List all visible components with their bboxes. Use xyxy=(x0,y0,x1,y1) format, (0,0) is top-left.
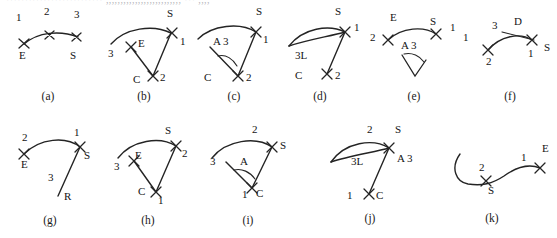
label-f-1-right: 1 xyxy=(528,48,534,59)
label-i-S: S xyxy=(280,140,286,151)
label-b-E: E xyxy=(138,38,145,49)
label-j-A3: A 3 xyxy=(397,153,413,164)
panel-c: S 1 A 3 C 2 xyxy=(196,14,286,90)
label-d-1: 1 xyxy=(354,22,360,33)
cut-off-header-text: ·························· ,,,,,,,,,,,,,… xyxy=(6,0,476,6)
label-i-A: A xyxy=(240,156,248,167)
label-d-3L: 3L xyxy=(295,50,307,61)
label-i-C: C xyxy=(256,188,263,199)
label-b-3: 3 xyxy=(108,48,114,59)
label-b-S: S xyxy=(167,8,173,19)
label-c-C: C xyxy=(204,72,211,83)
label-c-S: S xyxy=(256,6,262,17)
label-i-1: 1 xyxy=(242,189,248,200)
label-d-C: C xyxy=(295,70,302,81)
caption-a: (a) xyxy=(18,90,78,102)
panel-a: 1 2 3 E S xyxy=(8,14,98,76)
caption-h: (h) xyxy=(118,214,178,226)
label-e-E: E xyxy=(390,12,397,23)
panel-b: S 1 E 3 C 2 xyxy=(105,14,197,90)
label-e-1: 1 xyxy=(450,22,456,33)
caption-f: (f) xyxy=(480,90,540,102)
label-g-1: 1 xyxy=(74,127,80,138)
label-g-E: E xyxy=(21,159,28,170)
label-k-1: 1 xyxy=(521,152,527,163)
label-g-2: 2 xyxy=(22,132,28,143)
caption-i: (i) xyxy=(218,214,278,226)
label-j-3L: 3L xyxy=(351,156,363,167)
label-j-2: 2 xyxy=(367,124,373,135)
label-g-3: 3 xyxy=(48,172,54,183)
panel-h: S 2 E 3 C 1 xyxy=(110,126,202,208)
panel-k: 2 S 1 E xyxy=(448,138,557,208)
label-c-A3: A 3 xyxy=(213,36,229,47)
label-i-3: 3 xyxy=(210,156,216,167)
label-g-S: S xyxy=(84,150,90,161)
caption-d: (d) xyxy=(290,90,350,102)
panel-g: 2 1 E S 3 R xyxy=(10,128,102,208)
caption-k: (k) xyxy=(462,212,522,224)
label-i-2: 2 xyxy=(252,124,258,135)
label-k-2: 2 xyxy=(479,162,485,173)
label-c-1: 1 xyxy=(263,34,269,45)
label-j-1: 1 xyxy=(347,190,353,201)
label-h-2: 2 xyxy=(182,148,188,159)
label-b-C: C xyxy=(133,74,140,85)
label-f-3: 3 xyxy=(492,20,498,31)
label-f-2: 2 xyxy=(486,56,492,67)
label-b-2: 2 xyxy=(160,72,166,83)
label-g-R: R xyxy=(64,191,71,202)
label-a-3: 3 xyxy=(74,9,80,20)
label-b-1: 1 xyxy=(180,36,186,47)
label-f-D: D xyxy=(514,16,522,27)
caption-g: (g) xyxy=(20,214,80,226)
panel-f: 1 3 D S 1 2 xyxy=(462,14,557,80)
panel-e: E S 1 2 A 3 xyxy=(368,18,464,84)
label-h-C: C xyxy=(138,186,145,197)
label-f-S: S xyxy=(544,42,550,53)
caption-c: (c) xyxy=(204,90,264,102)
label-a-E: E xyxy=(19,50,26,61)
label-e-A3: A 3 xyxy=(401,40,417,51)
label-e-S: S xyxy=(430,16,436,27)
panel-j: 2 S 3L A 3 1 C xyxy=(325,126,435,208)
label-d-2: 2 xyxy=(335,70,341,81)
caption-e: (e) xyxy=(384,90,444,102)
figure-sheet: ·························· ,,,,,,,,,,,,,… xyxy=(0,0,557,238)
caption-b: (b) xyxy=(114,90,174,102)
label-c-2: 2 xyxy=(246,72,252,83)
label-h-3: 3 xyxy=(114,161,120,172)
label-e-2: 2 xyxy=(370,32,376,43)
panel-i: 2 S 3 A 1 C xyxy=(208,126,300,208)
panel-d: S 1 3L C 2 xyxy=(285,14,377,90)
label-k-E: E xyxy=(542,143,549,154)
label-h-S: S xyxy=(165,125,171,136)
label-a-S: S xyxy=(70,50,76,61)
label-h-E: E xyxy=(135,150,142,161)
label-j-C: C xyxy=(376,190,383,201)
label-a-2: 2 xyxy=(44,6,50,17)
label-f-1-left: 1 xyxy=(463,32,469,43)
caption-j: (j) xyxy=(340,212,400,224)
label-d-S: S xyxy=(335,6,341,17)
label-k-S: S xyxy=(488,185,494,196)
label-a-1: 1 xyxy=(16,12,22,23)
label-h-1: 1 xyxy=(158,195,164,206)
label-j-S: S xyxy=(395,124,401,135)
